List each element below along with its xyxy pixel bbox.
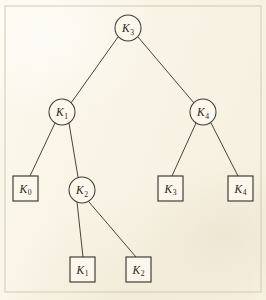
- figure-frame: [5, 6, 261, 292]
- internal-node-k3: K3: [115, 15, 141, 41]
- tree-edge: [211, 123, 238, 176]
- tree-edge: [138, 37, 194, 103]
- internal-node-k1: K1: [49, 99, 75, 125]
- external-node-k3: K3: [158, 176, 183, 201]
- external-node-k1: K1: [70, 257, 95, 282]
- external-node-k2: K2: [126, 257, 151, 282]
- external-node-k0: K0: [13, 176, 38, 201]
- tree-edge: [69, 123, 78, 177]
- binary-search-tree-figure: K3K1K4K2K0K3K4K1K2: [0, 0, 266, 300]
- internal-node-k2: K2: [69, 177, 95, 203]
- internal-node-k4: K4: [190, 99, 216, 125]
- tree-edge: [172, 123, 196, 176]
- tree-edge: [89, 202, 136, 257]
- tree-diagram: K3K1K4K2K0K3K4K1K2: [0, 0, 266, 300]
- tree-edges: [30, 37, 238, 257]
- tree-nodes: K3K1K4K2K0K3K4K1K2: [13, 15, 253, 282]
- tree-edge: [77, 202, 83, 257]
- tree-edge: [30, 123, 55, 176]
- figure-border: [5, 6, 261, 292]
- external-node-k4: K4: [228, 176, 253, 201]
- tree-edge: [71, 37, 118, 103]
